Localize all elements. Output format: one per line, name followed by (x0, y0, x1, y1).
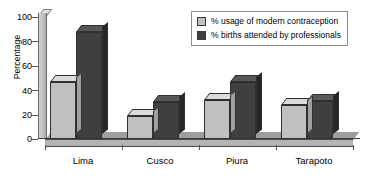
bar-lima-contraception (50, 82, 76, 139)
x-axis-tick-3 (276, 145, 277, 150)
x-axis-tick-4 (353, 145, 354, 150)
bar-piura-contraception (204, 100, 230, 139)
x-axis-tick-2 (199, 145, 200, 150)
y-axis-tick-100 (31, 17, 38, 18)
y-axis-tick-40 (31, 90, 38, 91)
chart-legend: % usage of modern contraception % births… (191, 11, 348, 46)
legend-label-births: % births attended by professionals (211, 31, 341, 40)
bar-side-face (230, 90, 236, 134)
y-axis-slab (38, 13, 47, 139)
legend-item-contraception: % usage of modern contraception (197, 16, 341, 27)
legend-item-births: % births attended by professionals (197, 30, 341, 41)
bar-front-face (281, 105, 307, 139)
x-axis-label-lima: Lima (48, 155, 118, 166)
x-axis-tick-1 (122, 145, 123, 150)
bar-front-face (127, 116, 153, 139)
legend-label-contraception: % usage of modern contraception (211, 17, 338, 26)
bar-side-face (256, 72, 262, 134)
legend-swatch-icon (197, 17, 206, 26)
bar-side-face (76, 72, 82, 134)
bar-front-face (204, 100, 230, 139)
y-axis-tick-20 (31, 115, 38, 116)
bar-side-face (153, 106, 159, 134)
bar-front-face (50, 82, 76, 139)
bar-side-face (179, 93, 185, 134)
x-axis-tick-0 (45, 145, 46, 150)
y-axis-tick-80 (31, 41, 38, 42)
x-axis-label-tarapoto: Tarapoto (279, 155, 349, 166)
y-axis-tick-60 (31, 66, 38, 67)
x-axis-label-piura: Piura (202, 155, 272, 166)
x-axis-label-cusco: Cusco (125, 155, 195, 166)
bar-side-face (333, 91, 339, 134)
legend-swatch-icon (197, 31, 206, 40)
bar-side-face (307, 95, 313, 134)
bar-cusco-contraception (127, 116, 153, 139)
bar-side-face (102, 22, 108, 134)
bar-tarapoto-contraception (281, 105, 307, 139)
bar-chart: Percentage 100 80 60 40 20 0 (0, 0, 367, 180)
y-axis-tick-0 (31, 139, 38, 140)
